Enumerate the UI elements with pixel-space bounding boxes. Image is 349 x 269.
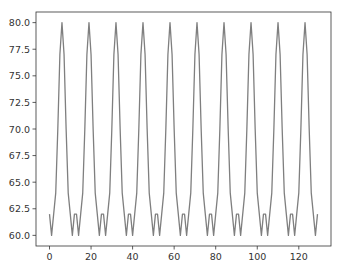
y-tick-label: 65.0: [9, 177, 30, 188]
y-tick-label: 67.5: [9, 150, 30, 161]
x-tick-label: 40: [127, 251, 139, 262]
y-tick-label: 60.0: [9, 230, 30, 241]
x-tick-label: 120: [290, 251, 308, 262]
y-tick-label: 75.0: [9, 70, 30, 81]
y-tick-label: 72.5: [9, 97, 30, 108]
y-tick-label: 70.0: [9, 124, 30, 135]
x-tick-label: 20: [85, 251, 97, 262]
axes-frame: [36, 12, 331, 246]
line-chart: 020406080100120 60.062.565.067.570.072.5…: [0, 0, 349, 269]
x-tick-label: 0: [46, 251, 52, 262]
y-tick-label: 80.0: [9, 17, 30, 28]
y-axis: 60.062.565.067.570.072.575.077.580.0: [9, 17, 36, 241]
plot-area: [50, 23, 318, 236]
series-line-0: [50, 23, 318, 236]
x-axis: 020406080100120: [46, 246, 307, 262]
x-tick-label: 80: [210, 251, 222, 262]
y-tick-label: 77.5: [9, 44, 30, 55]
x-tick-label: 100: [248, 251, 266, 262]
x-tick-label: 60: [168, 251, 180, 262]
y-tick-label: 62.5: [9, 203, 30, 214]
